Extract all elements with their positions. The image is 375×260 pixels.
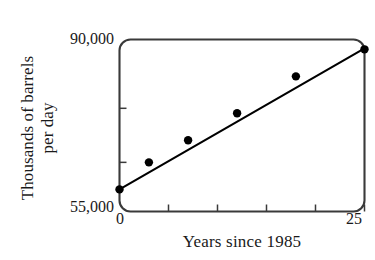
- data-point-3: [233, 109, 241, 117]
- data-point-4: [292, 72, 300, 80]
- plot-area: [0, 0, 375, 260]
- plot-frame-rect: [120, 40, 365, 212]
- data-point-1: [145, 158, 153, 166]
- axis-ticks: [120, 108, 365, 211]
- plot-frame: [120, 40, 365, 212]
- data-point-5: [360, 45, 368, 53]
- data-point-0: [115, 185, 123, 193]
- chart-figure: Thousands of barrels per day 90,000 55,0…: [0, 0, 375, 260]
- trend-line-segment: [120, 48, 365, 189]
- data-point-2: [184, 136, 192, 144]
- trend-line: [120, 48, 365, 189]
